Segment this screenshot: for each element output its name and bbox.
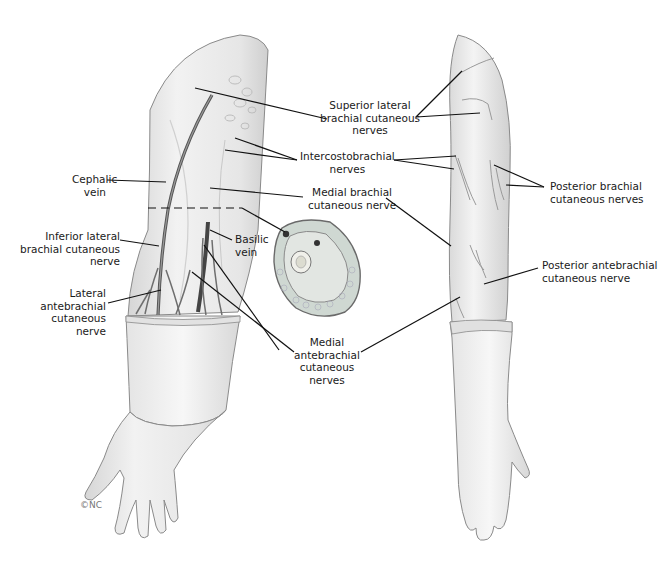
anterior-arm	[85, 35, 268, 538]
posterior-arm	[449, 35, 529, 540]
arm-cross-section	[274, 220, 360, 316]
artist-signature: ©NC	[80, 500, 102, 510]
label-basilic-vein: Basilic vein	[235, 233, 269, 258]
label-medial-brachial-cutaneous-nerve: Medial brachial cutaneous nerve	[308, 186, 396, 211]
label-cephalic-vein: Cephalic vein	[72, 173, 106, 198]
label-posterior-brachial-cutaneous-nerves: Posterior brachial cutaneous nerves	[550, 180, 644, 205]
label-superior-lateral-brachial-cutaneous-nerves: Superior lateral brachial cutaneous nerv…	[320, 99, 420, 137]
label-medial-antebrachial-cutaneous-nerves: Medial antebrachial cutaneous nerves	[292, 336, 362, 386]
label-posterior-antebrachial-cutaneous-nerve: Posterior antebrachial cutaneous nerve	[542, 259, 658, 284]
label-intercostobrachial-nerves: Intercostobrachial nerves	[300, 150, 395, 175]
label-inferior-lateral-brachial-cutaneous-nerve: Inferior lateral brachial cutaneous nerv…	[20, 230, 120, 268]
label-lateral-antebrachial-cutaneous-nerve: Lateral antebrachial cutaneous nerve	[30, 287, 106, 337]
